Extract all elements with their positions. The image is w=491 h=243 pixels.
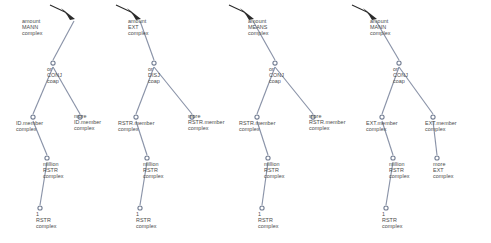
- tree-node-label: amountEXTcomplex: [128, 18, 148, 36]
- tree-node-label: moreRSTR.membercomplex: [309, 113, 346, 131]
- tree-node-label: amountMEANScomplex: [248, 18, 268, 36]
- tree-node-marker: [255, 115, 259, 119]
- tree-node-label-line-3: complex: [188, 125, 225, 131]
- tree-node-label-line-2: complex: [366, 126, 398, 132]
- tree-node-marker: [145, 156, 149, 160]
- tree-node-label: EXT.membercomplex: [366, 120, 398, 132]
- tree-node-label-line-3: complex: [248, 30, 268, 36]
- tree-node-label-line-3: complex: [370, 30, 390, 36]
- tree-node-label: orDISJcoap: [148, 66, 160, 84]
- tree-node-label: moreID.membercomplex: [74, 113, 101, 131]
- tree-node-label-line-3: complex: [36, 223, 56, 229]
- tree-node-label: 1RSTRcomplex: [382, 211, 402, 229]
- tree-node-label: amountMANNcomplex: [22, 18, 42, 36]
- tree-node-label-line-2: complex: [118, 126, 155, 132]
- tree-node-marker: [384, 206, 388, 210]
- tree-node-label: millionRSTRcomplex: [389, 161, 409, 179]
- tree-node-marker: [435, 156, 439, 160]
- tree-node-label-line-3: complex: [22, 30, 42, 36]
- tree-node-label: orCONJcoap: [269, 66, 284, 84]
- tree-edge: [53, 21, 74, 60]
- tree-node-marker: [152, 61, 156, 65]
- tree-node-marker: [397, 61, 401, 65]
- tree-node-marker: [380, 115, 384, 119]
- tree-node-label-line-3: complex: [264, 173, 284, 179]
- root-arrow-tail: [229, 5, 244, 12]
- tree-node-label-line-3: coap: [148, 78, 160, 84]
- tree-node-label: orCONJcoap: [47, 66, 62, 84]
- tree-node-marker: [45, 156, 49, 160]
- tree-node-label-line-3: complex: [382, 223, 402, 229]
- tree-node-label-line-3: coap: [393, 78, 408, 84]
- root-arrow-tail: [352, 5, 367, 12]
- tree-node-label: millionRSTRcomplex: [264, 161, 284, 179]
- tree-node-label: 1RSTRcomplex: [258, 211, 278, 229]
- tree-node-marker: [51, 61, 55, 65]
- tree-node-label: orCONJcoap: [393, 66, 408, 84]
- tree-node-label: EXT.membercomplex: [425, 120, 457, 132]
- tree-node-label-line-2: complex: [425, 126, 457, 132]
- tree-node-label: RSTR.membercomplex: [118, 120, 155, 132]
- tree-node-label: ID.membercomplex: [16, 120, 43, 132]
- tree-node-label-line-3: complex: [433, 173, 453, 179]
- tree-node-label-line-3: complex: [128, 30, 148, 36]
- tree-node-label: moreRSTR.membercomplex: [188, 113, 225, 131]
- tree-node-label: millionRSTRcomplex: [143, 161, 163, 179]
- tree-node-marker: [134, 115, 138, 119]
- tree-node-label: millionRSTRcomplex: [43, 161, 63, 179]
- tree-node-label-line-3: coap: [47, 78, 62, 84]
- root-arrow-marker: [61, 8, 75, 20]
- tree-node-marker: [31, 115, 35, 119]
- tree-node-label: RSTR.membercomplex: [239, 120, 276, 132]
- tree-node-label-line-3: complex: [258, 223, 278, 229]
- tree-node-label-line-3: complex: [136, 223, 156, 229]
- tree-node-label-line-3: complex: [43, 173, 63, 179]
- tree-node-label-line-2: complex: [16, 126, 43, 132]
- tree-node-label-line-3: coap: [269, 78, 284, 84]
- tree-node-label: 1RSTRcomplex: [36, 211, 56, 229]
- tree-node-marker: [431, 115, 435, 119]
- tree-node-marker: [138, 206, 142, 210]
- tree-node-label-line-3: complex: [389, 173, 409, 179]
- root-arrow-tail: [50, 5, 65, 12]
- tree-node-label-line-3: complex: [74, 125, 101, 131]
- figure-canvas: amountMANNcomplexorCONJcoapID.membercomp…: [0, 0, 491, 243]
- root-arrow-tail: [116, 5, 131, 12]
- tree-node-label: amountMANNcomplex: [370, 18, 390, 36]
- tree-node-marker: [266, 156, 270, 160]
- tree-node-label-line-3: complex: [143, 173, 163, 179]
- tree-node-marker: [38, 206, 42, 210]
- tree-node-marker: [260, 206, 264, 210]
- tree-node-label: 1RSTRcomplex: [136, 211, 156, 229]
- tree-node-label: moreEXTcomplex: [433, 161, 453, 179]
- tree-node-marker: [391, 156, 395, 160]
- tree-node-marker: [273, 61, 277, 65]
- tree-node-label-line-3: complex: [309, 125, 346, 131]
- tree-node-label-line-2: complex: [239, 126, 276, 132]
